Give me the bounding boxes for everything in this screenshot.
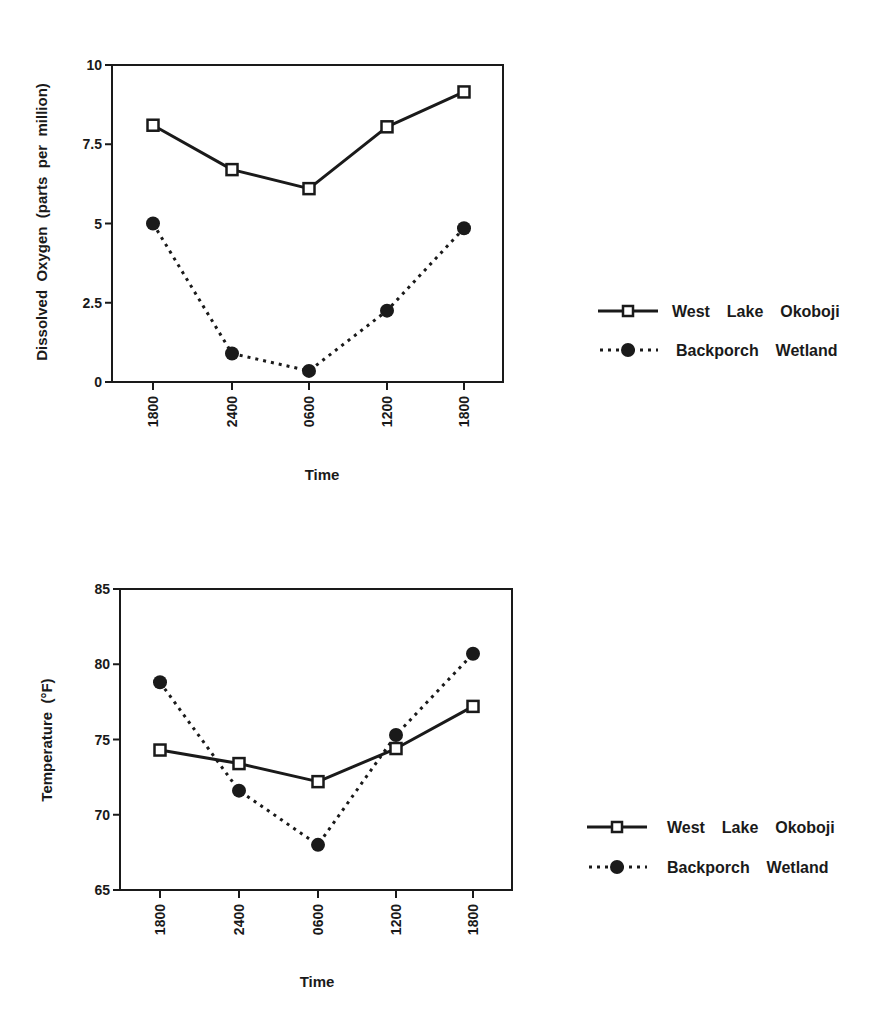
data-point: [302, 364, 316, 378]
data-point: [232, 784, 246, 798]
oxygen-legend: West Lake Okoboji Backporch Wetland: [598, 303, 840, 359]
legend-item-west-lake-okoboji: West Lake Okoboji: [598, 303, 840, 320]
y-tick-label: 5: [94, 216, 102, 232]
temperature-chart: 657075808518002400060012001800: [94, 581, 512, 935]
y-tick-label: 80: [94, 656, 110, 672]
y-tick-label: 75: [94, 732, 110, 748]
filled-circle-marker-icon: [610, 860, 624, 874]
data-point: [227, 164, 238, 175]
x-tick-label: 1200: [379, 396, 395, 427]
legend-label: West Lake Okoboji: [672, 303, 840, 320]
data-point: [389, 728, 403, 742]
data-point: [225, 346, 239, 360]
x-tick-label: 1200: [388, 904, 404, 935]
data-point: [313, 776, 324, 787]
x-tick-label: 1800: [145, 396, 161, 427]
data-point: [234, 758, 245, 769]
series-backporch-wetland: [153, 647, 480, 852]
legend-item-west-lake-okoboji: West Lake Okoboji: [587, 819, 835, 836]
data-point: [380, 304, 394, 318]
legend-item-backporch-wetland: Backporch Wetland: [589, 859, 829, 876]
data-point: [311, 838, 325, 852]
data-point: [459, 86, 470, 97]
open-square-marker-icon: [623, 306, 633, 316]
y-tick-label: 85: [94, 581, 110, 597]
open-square-marker-icon: [612, 822, 622, 832]
data-point: [457, 221, 471, 235]
y-tick-label: 65: [94, 882, 110, 898]
oxygen-y-axis-title: Dissolved Oxygen (parts per million): [33, 83, 50, 361]
x-tick-label: 1800: [465, 904, 481, 935]
filled-circle-marker-icon: [621, 343, 635, 357]
legend-label: Backporch Wetland: [667, 859, 829, 876]
series-west-lake-okoboji: [155, 701, 479, 787]
data-point: [466, 647, 480, 661]
legend-label: West Lake Okoboji: [667, 819, 835, 836]
data-point: [155, 745, 166, 756]
y-tick-label: 2.5: [83, 295, 103, 311]
y-tick-label: 10: [86, 57, 102, 73]
data-point: [391, 743, 402, 754]
data-point: [304, 183, 315, 194]
legend-label: Backporch Wetland: [676, 342, 838, 359]
y-tick-label: 7.5: [83, 136, 103, 152]
data-point: [153, 675, 167, 689]
legend-item-backporch-wetland: Backporch Wetland: [600, 342, 838, 359]
series-west-lake-okoboji: [148, 86, 470, 194]
x-tick-label: 0600: [301, 396, 317, 427]
dissolved-oxygen-chart: 02.557.51018002400060012001800: [83, 57, 503, 427]
plot-frame: [112, 65, 503, 382]
y-tick-label: 0: [94, 374, 102, 390]
data-point: [468, 701, 479, 712]
temperature-x-axis-title: Time: [300, 973, 335, 990]
data-point: [382, 121, 393, 132]
data-point: [148, 120, 159, 131]
y-tick-label: 70: [94, 807, 110, 823]
series-backporch-wetland: [146, 217, 471, 378]
figure-canvas: 02.557.51018002400060012001800 657075808…: [0, 0, 889, 1010]
temperature-y-axis-title: Temperature (°F): [38, 678, 55, 801]
temperature-legend: West Lake Okoboji Backporch Wetland: [587, 819, 835, 876]
data-point: [146, 217, 160, 231]
x-tick-label: 2400: [224, 396, 240, 427]
x-tick-label: 2400: [231, 904, 247, 935]
oxygen-x-axis-title: Time: [305, 466, 340, 483]
x-tick-label: 1800: [152, 904, 168, 935]
x-tick-label: 0600: [310, 904, 326, 935]
x-tick-label: 1800: [456, 396, 472, 427]
